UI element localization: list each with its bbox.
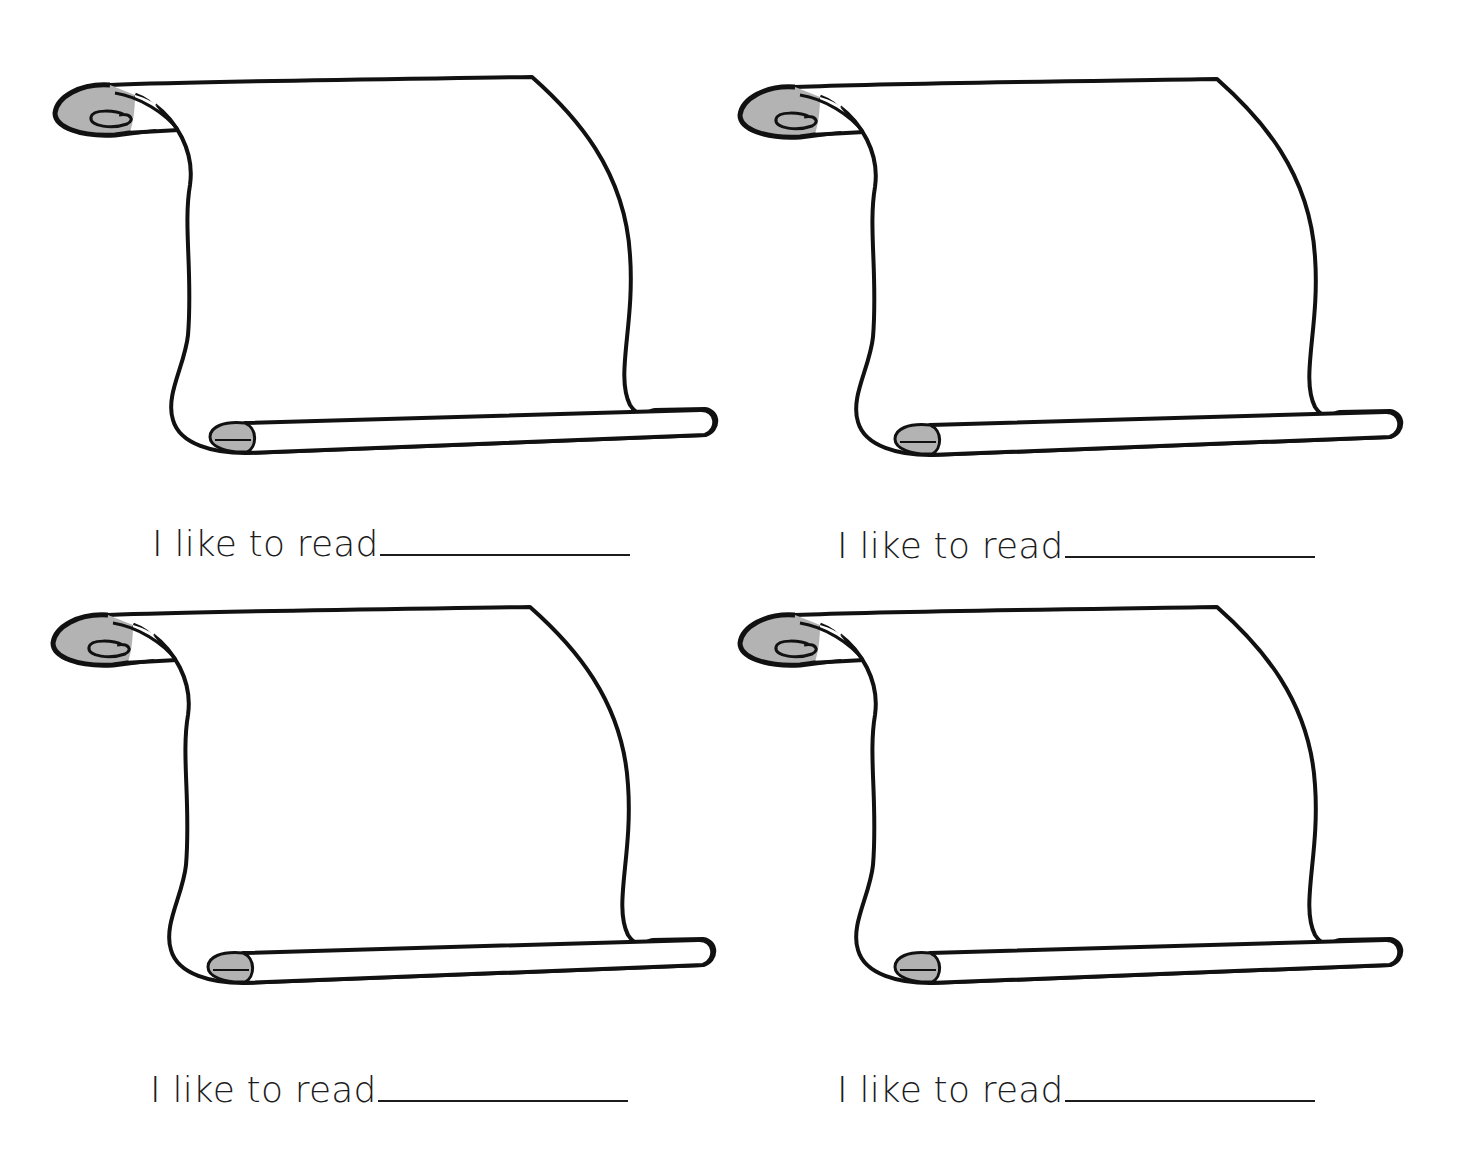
scroll-icon xyxy=(55,75,755,475)
reading-prompt: I like to read xyxy=(152,526,630,562)
answer-blank-line[interactable] xyxy=(380,554,630,556)
prompt-text: I like to read xyxy=(837,1069,1064,1110)
scroll-icon xyxy=(53,605,753,1005)
reading-prompt: I like to read xyxy=(837,528,1315,564)
reading-prompt: I like to read xyxy=(837,1072,1315,1108)
prompt-text: I like to read xyxy=(150,1069,377,1110)
reading-prompt: I like to read xyxy=(150,1072,628,1108)
answer-blank-line[interactable] xyxy=(1065,1100,1315,1102)
prompt-text: I like to read xyxy=(152,523,379,564)
answer-blank-line[interactable] xyxy=(378,1100,628,1102)
scroll-card-2: I like to read xyxy=(740,77,1440,617)
scroll-card-3: I like to read xyxy=(53,605,753,1145)
scroll-icon xyxy=(740,605,1440,1005)
scroll-card-1: I like to read xyxy=(55,75,755,615)
prompt-text: I like to read xyxy=(837,525,1064,566)
answer-blank-line[interactable] xyxy=(1065,556,1315,558)
scroll-icon xyxy=(740,77,1440,477)
scroll-card-4: I like to read xyxy=(740,605,1440,1145)
